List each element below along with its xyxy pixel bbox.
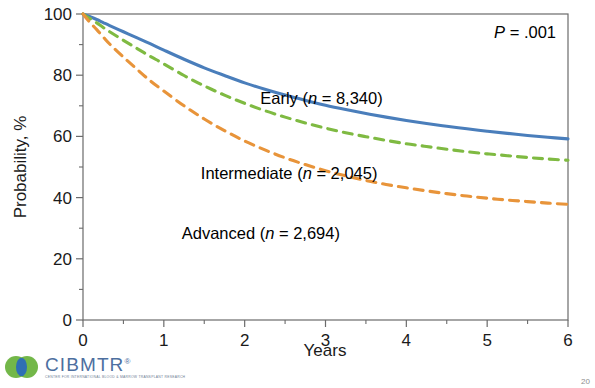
y-tick-label: 100 [44,5,72,24]
x-tick-label: 6 [563,331,572,350]
series-label-intermediate: Intermediate (n = 2,045) [201,164,378,182]
x-tick-label: 2 [240,331,249,350]
page-number: 20 [581,377,590,386]
x-tick-label: 4 [402,331,411,350]
series-label-advanced: Advanced (n = 2,694) [182,224,340,242]
cibmtr-wordmark: CIBMTR® [45,355,185,374]
y-tick-label: 80 [53,66,72,85]
y-tick-label: 60 [53,127,72,146]
cibmtr-logo: CIBMTR® CENTER FOR INTERNATIONAL BLOOD &… [4,350,185,384]
cibmtr-trademark: ® [124,356,131,365]
x-tick-label: 0 [78,331,87,350]
cibmtr-tagline: CENTER FOR INTERNATIONAL BLOOD & MARROW … [45,376,185,379]
y-axis-title: Probability, % [11,116,30,219]
y-tick-label: 20 [53,250,72,269]
y-tick-label: 0 [63,311,72,330]
x-axis-title: Years [304,341,347,360]
y-axis-ticks: 020406080100 [44,5,83,330]
cibmtr-name: CIBMTR [45,354,124,375]
cibmtr-logo-text: CIBMTR® CENTER FOR INTERNATIONAL BLOOD &… [45,355,185,379]
logo-circles-icon [4,352,40,382]
kaplan-meier-chart: 020406080100 0123456 Early (n = 8,340)In… [0,0,595,360]
cibmtr-logo-mark-icon [4,352,40,382]
p-value-annotation: P = .001 [494,23,556,41]
x-tick-label: 5 [482,331,491,350]
series-label-early: Early (n = 8,340) [260,89,382,107]
x-tick-label: 1 [159,331,168,350]
y-tick-label: 40 [53,189,72,208]
chart-svg: 020406080100 0123456 Early (n = 8,340)In… [0,0,595,360]
slide-canvas: 020406080100 0123456 Early (n = 8,340)In… [0,0,595,388]
